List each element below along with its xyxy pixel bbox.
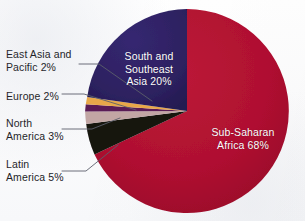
slice-label-east-asia-pacific: East Asia and Pacific 2%	[6, 48, 72, 73]
slice-label-latin-america: Latin America 5%	[6, 158, 64, 183]
pie-chart-figure: East Asia and Pacific 2% Europe 2% North…	[0, 0, 305, 221]
slice-label-south-southeast-asia: South and Southeast Asia 20%	[112, 50, 186, 88]
pie-chart-canvas	[0, 0, 305, 221]
slice-label-north-america: North America 3%	[6, 117, 64, 142]
slice-label-europe: Europe 2%	[6, 90, 59, 103]
slice-label-sub-saharan-africa: Sub-Saharan Africa 68%	[203, 126, 283, 151]
